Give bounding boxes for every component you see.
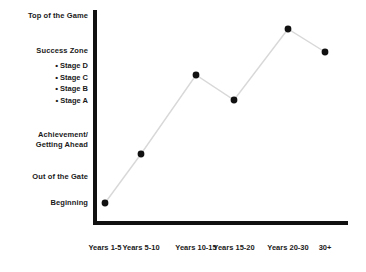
data-point-2 bbox=[138, 151, 145, 158]
x-axis-label-years-1-5: Years 1-5 bbox=[89, 243, 122, 252]
x-axis-label-30-plus: 30+ bbox=[319, 243, 332, 252]
data-point-5 bbox=[285, 26, 292, 33]
x-axis-label-years-10-15: Years 10-15 bbox=[175, 243, 216, 252]
career-progression-line-chart: Top of the Game Success Zone Achievement… bbox=[0, 0, 366, 272]
x-axis-label-years-15-20: Years 15-20 bbox=[213, 243, 254, 252]
plot-area bbox=[0, 0, 366, 272]
data-point-4 bbox=[231, 97, 238, 104]
series-line bbox=[105, 29, 325, 203]
data-point-3 bbox=[193, 72, 200, 79]
series-markers bbox=[102, 26, 329, 207]
data-point-6 bbox=[322, 49, 329, 56]
x-axis-label-years-5-10: Years 5-10 bbox=[122, 243, 159, 252]
x-axis-label-years-20-30: Years 20-30 bbox=[267, 243, 308, 252]
data-point-1 bbox=[102, 200, 109, 207]
